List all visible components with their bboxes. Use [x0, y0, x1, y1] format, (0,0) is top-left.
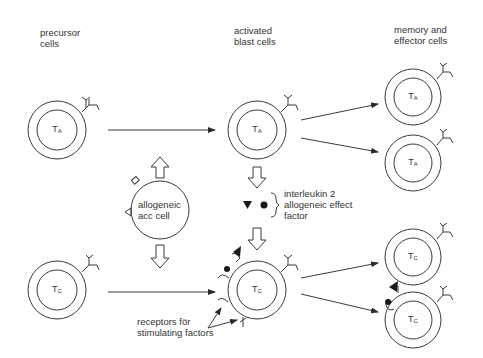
block-arrow-down	[151, 245, 169, 268]
heading-activated-blast-cells: activated blast cells	[234, 25, 276, 47]
brace-icon	[271, 193, 279, 217]
heading-precursor-cells: precursor cells	[40, 27, 80, 49]
label-allogeneic-acc-cell: allogeneic acc cell	[138, 199, 181, 221]
label-receptors: receptors för stimulating factors	[137, 316, 214, 338]
circle-factor-icon	[261, 202, 268, 209]
arrow-blast-ta-to-memory-1	[301, 104, 378, 120]
label-precursor-tc: TC	[42, 284, 72, 294]
label-blast-ta: TA	[242, 124, 272, 134]
heading-memory-effector-cells: memory and effector cells	[394, 24, 447, 46]
label-memory-ta-1: TA	[398, 91, 428, 101]
label-blast-tc: TC	[242, 284, 272, 294]
label-memory-ta-2: TA	[398, 157, 428, 167]
label-memory-tc-2: TC	[398, 314, 428, 324]
label-precursor-ta: TA	[42, 124, 72, 134]
arrow-blast-ta-to-memory-2	[301, 138, 378, 152]
label-factors: interleukin 2 allogeneic effect factor	[284, 188, 353, 221]
triangle-factor-icon	[243, 201, 252, 209]
arrow-blast-tc-to-memory-2	[301, 294, 378, 312]
arrow-blast-tc-to-memory-1	[301, 263, 378, 278]
block-arrow-down-to-tc	[248, 228, 266, 250]
label-memory-tc-1: TC	[398, 251, 428, 261]
block-arrow-down-to-factors	[248, 167, 266, 188]
block-arrow-up	[151, 157, 169, 178]
diagram-canvas	[0, 0, 483, 358]
